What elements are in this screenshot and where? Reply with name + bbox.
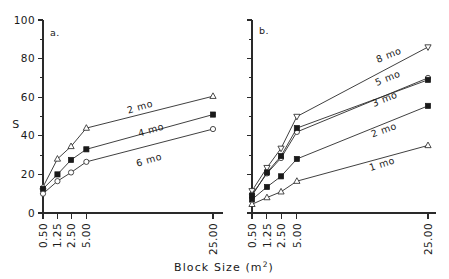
x-tick-label: 25.00 <box>207 223 219 255</box>
data-point-circle-open <box>40 191 45 196</box>
series-label-b-2-mo: 2 mo <box>369 120 398 139</box>
scientific-line-chart: 020406080100S0.501.252.505.0025.000.501.… <box>0 0 449 279</box>
panel-a: a.2 mo4 mo6 mo <box>40 27 216 196</box>
y-tick-label: 60 <box>21 91 35 103</box>
series-line-a-4-mo <box>43 115 213 189</box>
y-axis-title: S <box>12 118 19 131</box>
data-point-square-filled <box>210 112 215 117</box>
data-point-triangle-open <box>278 188 284 194</box>
y-tick-label: 40 <box>21 129 35 141</box>
data-point-square-filled <box>55 172 60 177</box>
data-point-square-filled <box>425 77 430 82</box>
data-point-triangle-down-open <box>425 45 431 51</box>
x-tick-label: 1.25 <box>51 223 63 248</box>
x-tick-label: 5.00 <box>80 223 92 248</box>
data-point-square-filled <box>278 153 283 158</box>
x-tick-label: 2.50 <box>275 223 287 248</box>
panel-b: b.8 mo5 mo3 mo2 mo1 mo <box>249 25 431 207</box>
data-point-triangle-open <box>425 142 431 148</box>
x-tick-label: 1.25 <box>261 223 273 248</box>
data-point-square-filled <box>294 125 299 130</box>
series-label-b-5-mo: 5 mo <box>373 68 402 88</box>
data-point-square-filled <box>278 174 283 179</box>
data-point-circle-open <box>210 126 215 131</box>
data-point-circle-open <box>55 179 60 184</box>
panel-label-b: b. <box>259 25 269 36</box>
y-tick-label: 0 <box>28 207 35 219</box>
data-point-square-filled <box>264 170 269 175</box>
series-label-b-8-mo: 8 mo <box>374 45 403 65</box>
panel-label-a: a. <box>50 27 60 38</box>
data-point-triangle-down-open <box>294 114 300 120</box>
x-axis-title-text: Block Size (m2) <box>174 260 274 274</box>
data-point-circle-open <box>68 170 73 175</box>
x-tick-label: 2.50 <box>65 223 77 248</box>
series-label-a-2-mo: 2 mo <box>126 98 155 116</box>
data-point-square-filled <box>264 184 269 189</box>
series-label-b-3-mo: 3 mo <box>370 89 399 109</box>
x-tick-label: 0.50 <box>246 223 258 248</box>
x-tick-label: 25.00 <box>422 223 434 255</box>
x-tick-label: 0.50 <box>37 223 49 248</box>
y-tick-label: 80 <box>21 52 35 64</box>
data-point-square-filled <box>68 157 73 162</box>
data-point-triangle-open <box>210 93 216 99</box>
y-tick-label: 100 <box>14 14 35 26</box>
figure-container: 020406080100S0.501.252.505.0025.000.501.… <box>0 0 449 279</box>
series-label-b-1-mo: 1 mo <box>368 154 397 173</box>
y-tick-label: 20 <box>21 168 35 180</box>
data-point-square-filled <box>294 156 299 161</box>
series-label-a-6-mo: 6 mo <box>135 151 164 169</box>
x-tick-label: 5.00 <box>291 223 303 248</box>
data-point-square-filled <box>425 103 430 108</box>
data-point-square-filled <box>84 147 89 152</box>
data-point-circle-open <box>84 159 89 164</box>
x-axis-title: Block Size (m2) <box>174 260 274 274</box>
series-label-a-4-mo: 4 mo <box>137 121 166 139</box>
